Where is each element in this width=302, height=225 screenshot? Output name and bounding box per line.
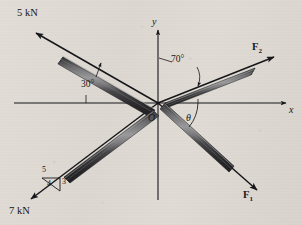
label-angle-70: 70° [171, 55, 184, 65]
origin-point [156, 101, 159, 104]
rod-f2 [161, 68, 255, 110]
vector-shaft-5kn [36, 33, 158, 103]
label-triangle-horizontal: 4 [47, 180, 51, 188]
figure-canvas: 5 kN 7 kN F2 F1 30° 70° θ x y O 5 3 4 [0, 0, 302, 225]
rod-f1 [160, 103, 234, 172]
label-force-5kn: 5 kN [17, 8, 38, 19]
label-axis-y: y [152, 17, 156, 27]
label-force-f1-subscript: 1 [249, 195, 253, 203]
label-axis-x: x [289, 105, 293, 115]
rod-5kn [58, 56, 155, 117]
rod-7kn [64, 110, 159, 183]
label-force-f2: F2 [252, 42, 262, 55]
label-triangle-vertical: 3 [62, 178, 66, 186]
label-force-f2-subscript: 2 [258, 47, 262, 55]
label-force-7kn: 7 kN [9, 206, 30, 217]
label-origin: O [148, 113, 155, 123]
label-angle-30: 30° [81, 80, 94, 90]
label-force-f1: F1 [243, 190, 253, 203]
label-angle-theta: θ [186, 113, 191, 123]
label-triangle-hypotenuse: 5 [42, 166, 46, 174]
